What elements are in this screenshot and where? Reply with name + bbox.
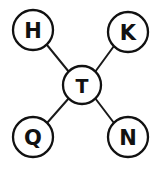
node-h[interactable]: H (13, 10, 53, 50)
edge-h-to-t (47, 45, 69, 72)
node-q[interactable]: Q (13, 117, 53, 157)
node-n[interactable]: N (108, 117, 148, 157)
diagram-canvas: H K Q N T (0, 0, 163, 169)
node-k[interactable]: K (108, 12, 148, 52)
edge-n-to-t (95, 98, 114, 123)
node-h-label: H (24, 19, 42, 43)
node-k-label: K (120, 21, 137, 45)
node-t-label: T (76, 75, 89, 97)
node-link-diagram: H K Q N T (0, 0, 163, 169)
node-q-label: Q (24, 126, 42, 150)
node-t-center[interactable]: T (63, 66, 101, 104)
edge-q-to-t (47, 98, 69, 123)
edge-k-to-t (95, 46, 114, 72)
node-n-label: N (119, 126, 137, 150)
